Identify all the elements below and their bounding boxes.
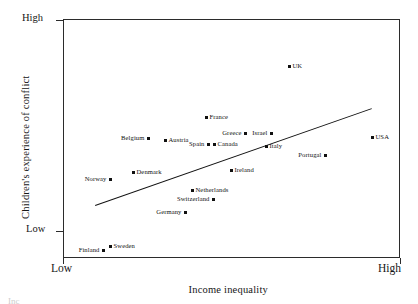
data-point xyxy=(102,249,105,252)
data-point xyxy=(205,116,208,119)
scatter-figure: Children's experience of conflict High L… xyxy=(0,0,418,304)
x-axis-title: Income inequality xyxy=(189,284,269,295)
data-point-label: France xyxy=(210,113,229,120)
data-point xyxy=(191,189,194,192)
x-axis-low-tick-label: Low xyxy=(51,262,72,274)
data-point xyxy=(371,136,374,139)
data-point xyxy=(132,171,135,174)
data-point-label: Denmark xyxy=(137,168,162,175)
data-point-label: Italy xyxy=(270,142,283,149)
data-point xyxy=(184,211,187,214)
data-point-label: Greece xyxy=(222,129,241,136)
data-point-label: Sweden xyxy=(114,242,135,249)
y-axis-title: Children's experience of conflict xyxy=(20,75,31,218)
y-axis-high-tick-mark xyxy=(56,20,63,21)
data-point-label: Finland xyxy=(79,246,100,253)
data-point xyxy=(164,139,167,142)
data-point-label: Belgium xyxy=(121,134,144,141)
figure-caption-partial: Inc xyxy=(8,296,418,304)
data-point xyxy=(270,132,273,135)
data-point-label: Switzerland xyxy=(177,195,210,202)
data-point-label: Israel xyxy=(252,129,267,136)
data-point-label: Canada xyxy=(218,140,238,147)
data-point-label: Spain xyxy=(189,140,205,147)
data-point-label: UK xyxy=(293,62,303,69)
data-point xyxy=(109,245,112,248)
data-point xyxy=(244,132,247,135)
data-point xyxy=(288,65,291,68)
data-point xyxy=(230,169,233,172)
data-point xyxy=(265,145,268,148)
data-point-label: Netherlands xyxy=(196,186,229,193)
y-axis-low-tick-label: Low xyxy=(26,223,45,234)
data-point xyxy=(212,198,215,201)
y-axis-low-tick-mark xyxy=(56,231,63,232)
x-axis-high-tick-mark xyxy=(400,258,401,264)
data-point-label: Germany xyxy=(156,208,181,215)
data-point-label: Portugal xyxy=(298,151,321,158)
data-point xyxy=(147,137,150,140)
data-point xyxy=(324,154,327,157)
data-point-label: Austria xyxy=(169,136,189,143)
data-point xyxy=(109,178,112,181)
plot-frame xyxy=(63,19,400,258)
data-point-label: USA xyxy=(376,133,390,140)
x-axis-high-tick-label: High xyxy=(378,262,401,274)
x-axis-low-tick-mark xyxy=(63,258,64,264)
data-point xyxy=(207,143,210,146)
data-point xyxy=(213,143,216,146)
data-point-label: Ireland xyxy=(235,166,254,173)
y-axis-high-tick-label: High xyxy=(22,12,43,23)
data-point-label: Norway xyxy=(85,175,107,182)
